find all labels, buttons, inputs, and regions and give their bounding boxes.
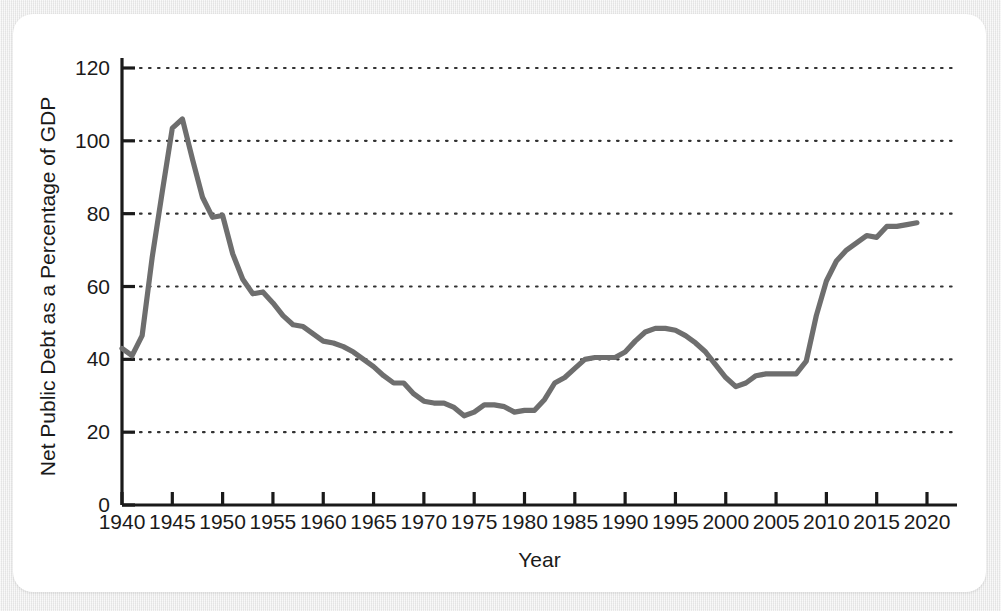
y-tick-label: 80 <box>87 202 110 225</box>
x-tick-label: 2020 <box>904 510 951 533</box>
x-tick-label: 1945 <box>149 510 196 533</box>
x-tick-label: 2005 <box>753 510 800 533</box>
x-tick-label: 1950 <box>199 510 246 533</box>
x-tick-label: 2000 <box>702 510 749 533</box>
y-axis-ticks <box>122 68 135 505</box>
x-tick-label: 1990 <box>602 510 649 533</box>
y-axis-tick-labels: 020406080100120 <box>75 56 110 516</box>
y-tick-label: 40 <box>87 347 110 370</box>
x-tick-label: 1970 <box>401 510 448 533</box>
gridlines <box>122 68 957 432</box>
x-tick-label: 1960 <box>300 510 347 533</box>
y-axis-title: Net Public Debt as a Percentage of GDP <box>36 97 59 476</box>
x-tick-label: 2015 <box>853 510 900 533</box>
x-tick-label: 1965 <box>350 510 397 533</box>
figure-card: 1940194519501955196019651970197519801985… <box>13 14 986 592</box>
x-axis-title: Year <box>518 548 560 571</box>
y-tick-label: 0 <box>98 493 110 516</box>
y-tick-label: 120 <box>75 56 110 79</box>
debt-gdp-line <box>122 119 917 416</box>
x-axis-tick-labels: 1940194519501955196019651970197519801985… <box>99 510 951 533</box>
y-tick-label: 60 <box>87 275 110 298</box>
x-tick-label: 1980 <box>501 510 548 533</box>
x-tick-label: 1975 <box>451 510 498 533</box>
y-tick-label: 20 <box>87 420 110 443</box>
x-axis-ticks <box>122 492 927 505</box>
x-tick-label: 2010 <box>803 510 850 533</box>
x-tick-label: 1995 <box>652 510 699 533</box>
line-chart: 1940194519501955196019651970197519801985… <box>13 14 986 592</box>
x-tick-label: 1985 <box>551 510 598 533</box>
x-tick-label: 1955 <box>250 510 297 533</box>
y-tick-label: 100 <box>75 129 110 152</box>
